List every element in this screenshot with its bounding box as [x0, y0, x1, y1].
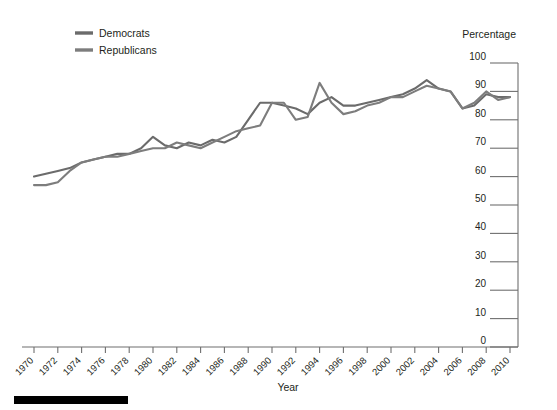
y-tick-label-70: 70: [475, 136, 487, 147]
y-axis-title: Percentage: [462, 28, 516, 40]
y-tick-label-10: 10: [475, 307, 487, 318]
x-axis-title: Year: [277, 381, 299, 393]
y-tick-label-80: 80: [475, 108, 487, 119]
y-tick-label-20: 20: [475, 278, 487, 289]
y-tick-label-40: 40: [475, 221, 487, 232]
y-tick-label-30: 30: [475, 250, 487, 261]
y-tick-label-90: 90: [475, 79, 487, 90]
y-tick-label-100: 100: [469, 51, 486, 62]
legend-label-republicans: Republicans: [99, 44, 157, 56]
footer-rule: [14, 396, 128, 404]
legend-label-democrats: Democrats: [99, 27, 150, 39]
y-tick-label-0: 0: [480, 335, 486, 346]
line-chart: DemocratsRepublicans Percentage 10090807…: [0, 0, 557, 410]
chart-container: DemocratsRepublicans Percentage 10090807…: [0, 0, 557, 410]
y-tick-label-60: 60: [475, 165, 487, 176]
y-tick-label-50: 50: [475, 193, 487, 204]
